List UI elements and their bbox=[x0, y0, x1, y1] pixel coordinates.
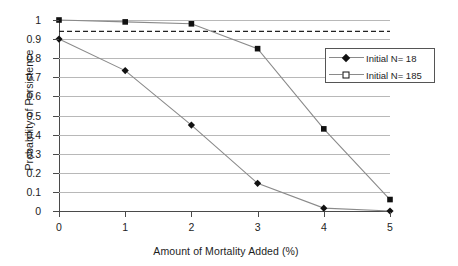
y-tick-mark bbox=[53, 154, 59, 155]
series-line bbox=[59, 20, 390, 200]
x-tick-mark bbox=[125, 212, 126, 217]
data-point-diamond bbox=[320, 205, 327, 212]
x-tick-mark bbox=[191, 212, 192, 217]
x-tick-mark bbox=[324, 212, 325, 217]
y-tick-mark bbox=[53, 96, 59, 97]
x-tick-mark bbox=[390, 212, 391, 217]
data-point-square bbox=[321, 126, 327, 132]
x-tick-label: 0 bbox=[56, 222, 62, 233]
y-tick-mark bbox=[53, 39, 59, 40]
y-tick-mark bbox=[53, 58, 59, 59]
legend-marker-filled-diamond-icon bbox=[326, 50, 366, 66]
legend-label: Initial N= 185 bbox=[366, 70, 422, 81]
legend-item-0[interactable]: Initial N= 18 bbox=[326, 50, 434, 66]
x-tick-label: 1 bbox=[122, 222, 128, 233]
data-point-square bbox=[122, 19, 128, 25]
x-tick-mark bbox=[258, 212, 259, 217]
x-axis-title: Amount of Mortality Added (%) bbox=[60, 245, 392, 257]
x-tick-label: 5 bbox=[387, 222, 393, 233]
legend-marker-open-square-icon bbox=[326, 67, 366, 83]
x-tick-label: 2 bbox=[188, 222, 194, 233]
y-tick-mark bbox=[53, 173, 59, 174]
chart-legend: Initial N= 18 Initial N= 185 bbox=[325, 48, 435, 83]
x-tick-label: 4 bbox=[321, 222, 327, 233]
y-tick-mark bbox=[53, 135, 59, 136]
data-point-square bbox=[189, 21, 195, 27]
legend-item-1[interactable]: Initial N= 185 bbox=[326, 67, 434, 83]
x-tick-mark bbox=[59, 212, 60, 217]
y-tick-mark bbox=[53, 77, 59, 78]
x-tick-label: 3 bbox=[255, 222, 261, 233]
y-tick-mark bbox=[53, 20, 59, 21]
y-tick-mark bbox=[53, 116, 59, 117]
data-point-square bbox=[255, 46, 261, 52]
data-point-square bbox=[387, 197, 393, 203]
chart-figure: Probability of Persistence 10.90.80.70.6… bbox=[0, 0, 458, 266]
series-1 bbox=[56, 17, 393, 202]
y-tick-mark bbox=[53, 192, 59, 193]
legend-label: Initial N= 18 bbox=[366, 53, 416, 64]
